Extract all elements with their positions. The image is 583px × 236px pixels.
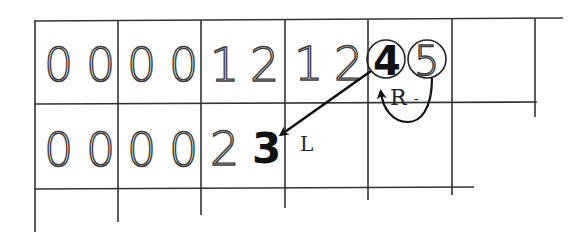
cell-r1-c4-digit-a: 1	[294, 37, 323, 91]
cell-r1-c1-digit-b: 0	[86, 38, 115, 92]
grid-bottom-line	[34, 187, 474, 189]
cell-r1-c4-digit-b: 2	[334, 37, 363, 91]
cell-r1-c2-digit-b: 0	[169, 38, 198, 92]
cell-r1-c5-digit-b: 5	[414, 38, 439, 84]
cell-r2-c3-digit-a: 2	[210, 122, 239, 176]
cell-r1-c2-digit-a: 0	[127, 38, 156, 92]
label-right-dash: -	[414, 91, 419, 107]
row-2: 0 0 0 0 2 3	[44, 122, 281, 177]
row-1: 0 0 0 0 1 2 1 2 4 5	[44, 37, 446, 92]
cell-r2-c1-digit-b: 0	[86, 123, 115, 177]
cell-r2-c3-digit-b: 3	[252, 124, 281, 173]
label-right-arrow: R	[390, 85, 408, 110]
cell-r2-c2-digit-a: 0	[127, 123, 156, 177]
cell-r1-c5-digit-a: 4	[373, 38, 401, 84]
label-left-arrow: L	[300, 132, 313, 156]
cell-r1-c3-digit-a: 1	[210, 38, 239, 92]
cell-r2-c1-digit-a: 0	[44, 123, 73, 177]
grid-top-line	[34, 18, 563, 21]
cell-r1-c3-digit-b: 2	[250, 38, 279, 92]
tape-diagram: 0 0 0 0 1 2 1 2 4 5 0 0 0 0 2 3 L R -	[0, 0, 583, 236]
cell-r1-c1-digit-a: 0	[44, 38, 73, 92]
cell-r2-c2-digit-b: 0	[169, 123, 198, 177]
